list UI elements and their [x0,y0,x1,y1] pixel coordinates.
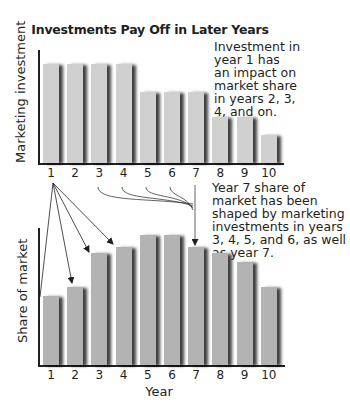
bottom-y-axis [38,228,40,366]
x-tick-10: 10 [259,368,279,382]
x-tick-5: 5 [138,368,158,382]
x-tick-7: 7 [186,368,206,382]
x-tick-1: 1 [41,368,61,382]
bottom-x-axis [38,365,285,367]
x-tick-6: 6 [162,368,182,382]
x-tick-9: 9 [235,368,255,382]
bar-year-4 [116,247,132,365]
bar-year-1 [43,296,59,365]
bar-year-7 [188,247,204,365]
x-tick-8: 8 [210,368,230,382]
bottom-x-axis-label: Year [129,384,189,399]
bottom-y-axis-label: Share of market [15,239,30,343]
bar-year-5 [140,235,156,365]
bar-year-8 [212,253,228,365]
bar-year-3 [91,253,107,365]
x-tick-4: 4 [114,368,134,382]
bar-year-6 [164,235,180,365]
x-tick-2: 2 [65,368,85,382]
x-tick-3: 3 [89,368,109,382]
bar-year-9 [237,262,253,365]
bar-year-2 [67,287,83,365]
bar-year-10 [261,287,277,365]
